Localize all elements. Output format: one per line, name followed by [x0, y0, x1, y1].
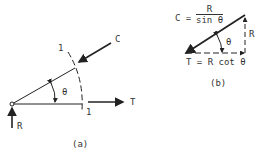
- label-t: T: [130, 97, 135, 107]
- fraction-numerator: R: [196, 4, 223, 15]
- angle-arc: [51, 83, 55, 102]
- tension-equation: T = R cot θ: [186, 57, 246, 67]
- compression-arrow: [79, 43, 111, 62]
- inclined-member: [12, 68, 75, 104]
- joint-diagram-a: [10, 43, 123, 128]
- label-theta: θ: [62, 87, 67, 97]
- caption-a: (a): [72, 139, 88, 149]
- fraction-denominator: sin θ: [196, 15, 223, 25]
- compression-fraction: R sin θ: [196, 4, 223, 25]
- label-section-bottom: 1: [86, 107, 91, 117]
- pin-joint-icon: [10, 102, 14, 106]
- label-r: R: [17, 121, 22, 131]
- label-section-top: 1: [58, 43, 63, 53]
- label-theta-b: θ: [226, 37, 231, 47]
- compression-eq-lhs: C =: [175, 13, 191, 23]
- angle-arc-b: [217, 35, 222, 52]
- label-c: C: [115, 34, 120, 44]
- label-r-b: R: [249, 29, 254, 39]
- caption-b: (b): [210, 78, 226, 88]
